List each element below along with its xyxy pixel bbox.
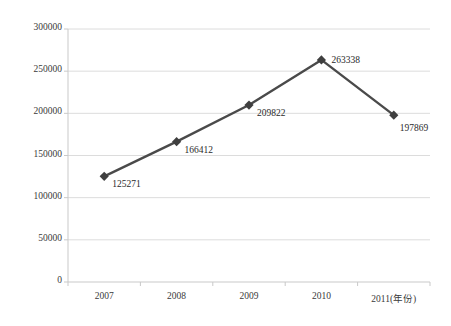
y-axis-tick-label: 150000 (6, 149, 62, 159)
y-axis-ticks (64, 29, 68, 282)
line-chart: 050000100000150000200000250000300000 200… (0, 0, 451, 326)
x-axis-tick-label: 2007 (64, 291, 144, 301)
y-axis-tick-label: 100000 (6, 191, 62, 201)
y-axis-tick-label: 200000 (6, 106, 62, 116)
data-point-value-label: 263338 (331, 55, 360, 65)
x-axis-tick-label: 2011(年份) (354, 291, 434, 305)
y-axis-tick-label: 250000 (6, 64, 62, 74)
data-point-marker[interactable] (172, 137, 181, 146)
x-axis-tick-label: 2010 (281, 291, 361, 301)
y-axis-tick-label: 300000 (6, 22, 62, 32)
y-axis-tick-label: 50000 (6, 233, 62, 243)
data-series-line (104, 60, 394, 176)
data-point-value-label: 166412 (185, 145, 214, 155)
x-axis-tick-label: 2008 (137, 291, 217, 301)
x-axis-ticks (68, 282, 430, 286)
chart-plot-area (0, 0, 451, 326)
x-axis-tick-label: 2009 (209, 291, 289, 301)
data-point-value-label: 197869 (400, 123, 429, 133)
series-line (104, 60, 394, 176)
data-point-value-label: 209822 (257, 108, 286, 118)
data-point-markers (100, 55, 399, 181)
gridlines (68, 29, 430, 240)
data-point-value-label: 125271 (112, 179, 141, 189)
y-axis-tick-label: 0 (6, 275, 62, 285)
data-point-marker[interactable] (100, 172, 109, 181)
